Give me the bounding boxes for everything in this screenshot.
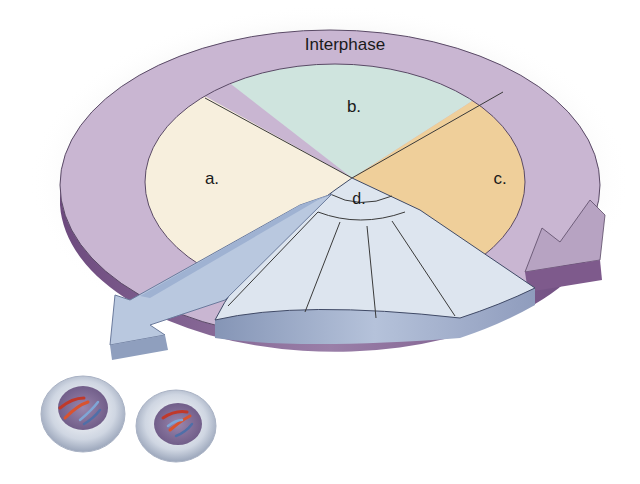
sector-label-c: c. xyxy=(493,169,506,188)
sector-label-b: b. xyxy=(347,97,361,116)
sector-label-d: d. xyxy=(352,190,365,207)
sector-label-a: a. xyxy=(205,169,219,188)
daughter-cell-1 xyxy=(41,376,125,452)
cell-cycle-diagram: Interphase a. b. c. d. xyxy=(0,0,640,484)
daughter-cell-2 xyxy=(136,390,216,462)
ring-label-interphase: Interphase xyxy=(305,35,385,54)
